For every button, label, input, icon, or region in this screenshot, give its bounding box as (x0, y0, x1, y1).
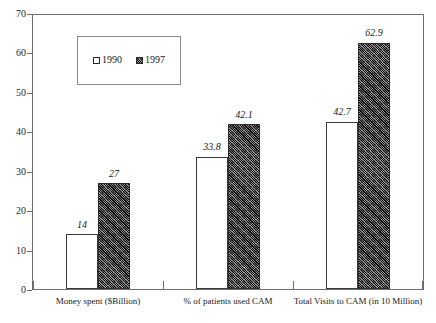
x-axis-labels: Money spent ($Billion) % of patients use… (33, 297, 423, 313)
y-tick-label: 0 (21, 285, 26, 295)
bar-value-label: 27 (109, 169, 119, 179)
legend-item-1997[interactable]: 1997 (136, 55, 165, 65)
x-group-separator (422, 281, 423, 289)
y-axis: 70 60 50 40 30 20 10 0 (0, 14, 26, 290)
bar-1997[interactable] (98, 183, 130, 289)
bar-value-label: 42.7 (333, 107, 351, 117)
bar-1990[interactable] (326, 122, 358, 289)
legend-swatch-white-icon (93, 57, 100, 64)
legend-label: 1997 (145, 55, 165, 65)
legend-row: 1990 1997 (78, 55, 180, 65)
y-tick-label: 70 (16, 9, 26, 19)
bar-value-label: 33.8 (203, 142, 221, 152)
bar-1997[interactable] (228, 124, 260, 289)
bar-1997[interactable] (358, 43, 390, 289)
x-category-label: % of patients used CAM (184, 297, 273, 307)
y-tick-mark (27, 290, 32, 291)
y-tick-label: 40 (16, 127, 26, 137)
bar-1990[interactable] (196, 157, 228, 289)
y-tick-label: 20 (16, 206, 26, 216)
y-tick-label: 50 (16, 88, 26, 98)
bar-chart: 70 60 50 40 30 20 10 0 14 27 (0, 0, 436, 323)
bar-value-label: 14 (77, 220, 87, 230)
bar-group: 33.8 42.1 (163, 15, 293, 289)
y-tick-label: 60 (16, 48, 26, 58)
bar-value-label: 42.1 (235, 110, 253, 120)
legend-label: 1990 (102, 55, 122, 65)
legend-swatch-hatched-icon (136, 57, 143, 64)
y-tick-label: 30 (16, 167, 26, 177)
y-tick-label: 10 (16, 246, 26, 256)
bar-1990[interactable] (66, 234, 98, 289)
chart-legend: 1990 1997 (77, 36, 181, 85)
x-category-label: Total Visits to CAM (in 10 Million) (294, 297, 423, 307)
x-category-label: Money spent ($Billion) (56, 297, 141, 307)
bar-group: 42.7 62.9 (293, 15, 422, 289)
legend-item-1990[interactable]: 1990 (93, 55, 122, 65)
bar-value-label: 62.9 (365, 28, 383, 38)
